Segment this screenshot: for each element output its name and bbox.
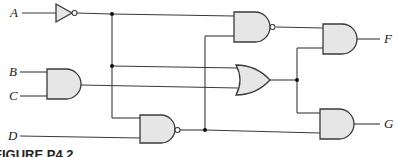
nand-gate-2 bbox=[140, 115, 180, 143]
input-label-c: C bbox=[9, 88, 18, 103]
output-label-g: G bbox=[384, 116, 394, 131]
logic-circuit-diagram: A B C D F G bbox=[0, 0, 398, 157]
or-gate bbox=[236, 65, 270, 95]
and-gate-bc bbox=[47, 69, 81, 99]
and-gate-f bbox=[323, 24, 357, 54]
junction-dot bbox=[203, 128, 207, 132]
input-label-b: B bbox=[9, 64, 17, 79]
not-gate bbox=[56, 4, 77, 22]
and-gate-g bbox=[320, 109, 354, 139]
figure-caption: FIGURE P4.2 bbox=[0, 147, 73, 157]
junction-dot bbox=[295, 78, 299, 82]
junction-dot bbox=[110, 12, 114, 16]
junction-dot bbox=[110, 64, 114, 68]
output-label-f: F bbox=[383, 31, 393, 46]
nand-gate-1 bbox=[234, 12, 275, 42]
input-label-a: A bbox=[9, 5, 18, 20]
input-label-d: D bbox=[7, 128, 18, 143]
